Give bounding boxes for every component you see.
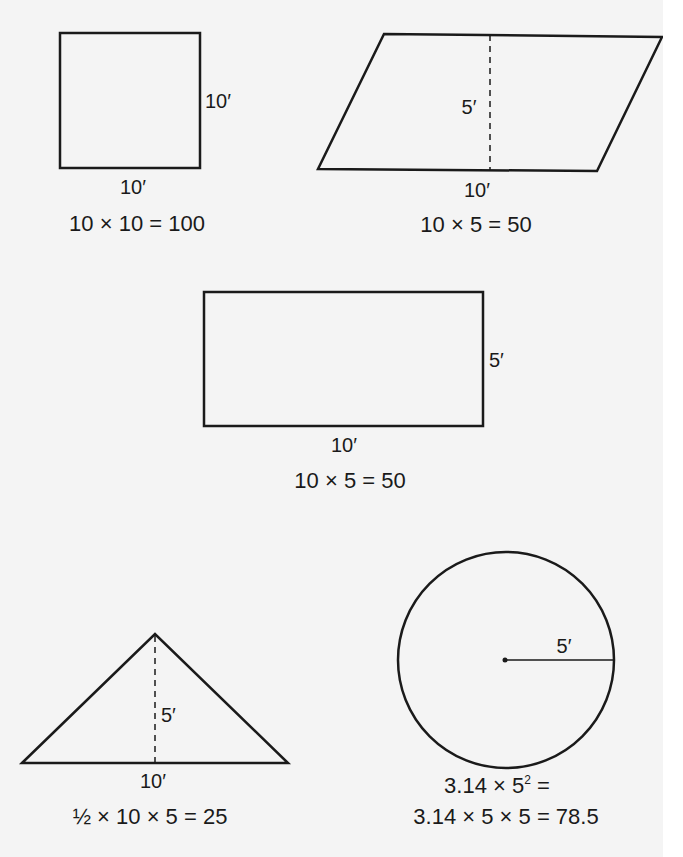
triangle-equation: ½ × 10 × 5 = 25: [73, 806, 228, 828]
rectangle-equation: 10 × 5 = 50: [294, 470, 405, 492]
parallelogram-base-label: 10′: [464, 180, 490, 200]
diagram-page: 10′ 10′ 10 × 10 = 100 5′ 10′ 10 × 5 = 50…: [0, 0, 663, 857]
triangle-base-label: 10′: [140, 771, 166, 791]
circle-center-dot: [503, 658, 508, 663]
square-base-label: 10′: [120, 177, 146, 197]
circle-equation-line2: 3.14 × 5 × 5 = 78.5: [413, 806, 598, 828]
circle-equation-line1-suffix: =: [531, 773, 550, 798]
square-side-label: 10′: [205, 91, 231, 111]
circle-equation-line1: 3.14 × 52 =: [444, 775, 550, 797]
square-equation: 10 × 10 = 100: [69, 213, 205, 235]
square-shape: [60, 33, 200, 168]
circle-equation-line1-prefix: 3.14 × 5: [444, 773, 524, 798]
rectangle-base-label: 10′: [331, 435, 357, 455]
parallelogram-height-label: 5′: [462, 97, 477, 117]
rectangle-shape: [204, 292, 483, 426]
rectangle-side-label: 5′: [489, 350, 504, 370]
parallelogram-equation: 10 × 5 = 50: [420, 214, 531, 236]
triangle-shape: [22, 634, 288, 763]
circle-radius-label: 5′: [557, 636, 572, 656]
circle-equation-exponent: 2: [524, 773, 531, 787]
shapes-canvas: [0, 0, 663, 857]
triangle-height-label: 5′: [161, 705, 176, 725]
